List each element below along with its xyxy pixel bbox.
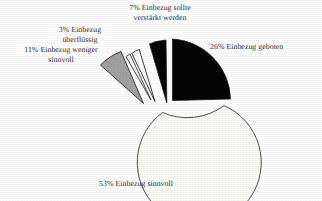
pie-label-einbezug-ueberfluessig: 3% Einbezug überflüssig	[38, 25, 122, 44]
pie-label-einbezug-weniger-sinnvoll: 11% Einbezug weniger sinnvoll	[5, 45, 117, 64]
pie-chart-figure: 7% Einbezug sollte verstärkt werden 3% E…	[0, 0, 322, 201]
pie-label-einbezug-verstaerkt: 7% Einbezug sollte verstärkt werden	[104, 3, 216, 22]
pie-label-einbezug-sinnvoll: 53% Einbezug sinnvoll	[68, 179, 204, 189]
pie-label-einbezug-geboten: 26% Einbezug geboten	[210, 42, 320, 52]
